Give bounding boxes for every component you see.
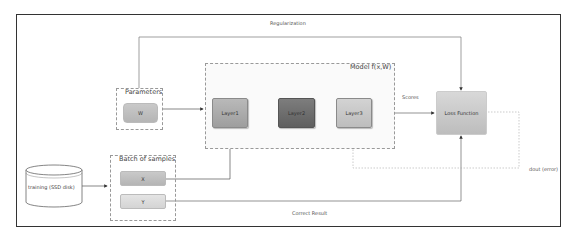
training-label: training (SSD disk) [28, 184, 75, 190]
x-node: X [120, 171, 166, 186]
w-node: W [123, 103, 158, 123]
y-node: Y [120, 194, 166, 209]
batch-group [110, 155, 176, 221]
correct-result-label: Correct Result [292, 210, 327, 216]
loss-function-node: Loss Function [436, 91, 487, 135]
loss-function-label: Loss Function [445, 110, 479, 116]
layer2-node: Layer2 [278, 98, 315, 128]
dout-error-label: dout (error) [529, 166, 558, 172]
layer1-node: Layer1 [212, 98, 248, 128]
x-label: X [141, 176, 144, 182]
model-title: Model f(x,W) [350, 63, 391, 71]
y-label: Y [141, 199, 144, 205]
parameters-title: Parameters [125, 88, 162, 96]
layer2-label: Layer2 [288, 110, 305, 116]
batch-title: Batch of samples [119, 155, 175, 163]
layer3-label: Layer3 [345, 110, 362, 116]
regularization-label: Regularization [270, 20, 306, 26]
training-disk: training (SSD disk) [25, 164, 83, 210]
w-label: W [138, 110, 143, 116]
scores-label: Scores [402, 94, 419, 100]
layer3-node: Layer3 [336, 98, 372, 128]
layer1-label: Layer1 [221, 110, 238, 116]
